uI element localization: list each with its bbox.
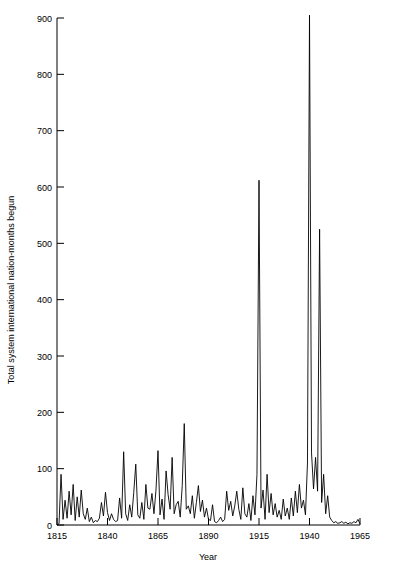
x-tick-label: 1815 xyxy=(47,531,67,541)
y-tick-label: 900 xyxy=(37,14,52,24)
x-tick-label: 1890 xyxy=(198,531,218,541)
y-axis-title: Total system international nation-months… xyxy=(6,196,16,385)
line-chart: 0100200300400500600700800900 18151840186… xyxy=(0,0,400,567)
x-tick-label: 1915 xyxy=(249,531,269,541)
x-axis-title: Year xyxy=(199,552,217,562)
y-tick-label: 100 xyxy=(37,464,52,474)
y-tick-label: 300 xyxy=(37,352,52,362)
data-series-line xyxy=(57,15,360,525)
y-tick-label: 0 xyxy=(47,521,52,531)
y-tick-label: 800 xyxy=(37,70,52,80)
y-tick-label: 600 xyxy=(37,183,52,193)
x-tick-label: 1940 xyxy=(299,531,319,541)
y-axis-ticks: 0100200300400500600700800900 xyxy=(37,14,64,531)
x-tick-label: 1965 xyxy=(350,531,370,541)
y-tick-label: 200 xyxy=(37,408,52,418)
x-tick-label: 1840 xyxy=(97,531,117,541)
y-tick-label: 400 xyxy=(37,295,52,305)
y-tick-label: 500 xyxy=(37,239,52,249)
chart-figure: 0100200300400500600700800900 18151840186… xyxy=(0,0,400,567)
x-tick-label: 1865 xyxy=(148,531,168,541)
x-axis-ticks: 1815184018651890191519401965 xyxy=(47,518,370,541)
y-tick-label: 700 xyxy=(37,126,52,136)
